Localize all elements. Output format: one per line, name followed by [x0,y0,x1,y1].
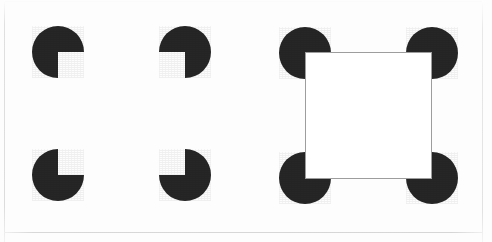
panel-occluding-square: Four complete discs overlaid by an opaqu… [246,0,492,242]
pacman-inducer-top-right [159,26,211,78]
occluding-square [305,52,432,179]
pacman-inducer-bottom-left [32,149,84,201]
wedge-notch-bottom-right [58,52,85,79]
kanizsa-figure: Four pac-man discs with inward-facing 90… [0,0,492,242]
panel-illusory-square: Four pac-man discs with inward-facing 90… [0,0,246,242]
pacman-inducer-bottom-right [159,149,211,201]
wedge-notch-top-left [158,148,185,175]
pacman-inducer-top-left [32,26,84,78]
wedge-notch-bottom-left [158,52,185,79]
wedge-notch-top-right [58,148,85,175]
